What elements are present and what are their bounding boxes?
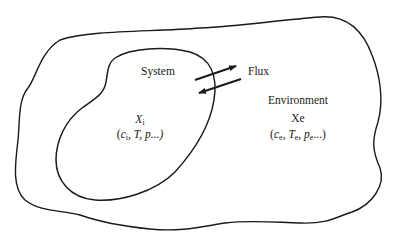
environment-label: Environment [268,95,328,107]
system-label: System [141,66,175,78]
flux-in-arrow [199,79,241,93]
system-var-symbol: X [135,113,142,125]
diagram-canvas [0,0,403,239]
system-var-subscript: i [142,118,144,127]
flux-label: Flux [248,66,269,78]
environment-boundary [15,17,381,230]
system-variable: Xi [135,114,144,127]
environment-parameters: (ce, Te, pe...) [270,129,326,142]
environment-variable: Xe [291,113,304,125]
system-parameters: (ci, T, p...) [117,129,163,142]
flux-out-arrow [195,66,236,80]
paren-close: ...) [313,128,325,140]
param-rest: , T, p...) [128,128,163,140]
